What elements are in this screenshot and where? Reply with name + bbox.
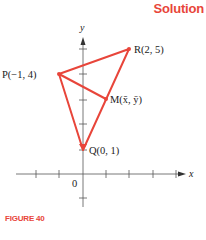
point-m-marker [104, 97, 108, 101]
point-p-marker [57, 72, 61, 76]
point-r-marker [127, 47, 131, 51]
point-m-label: M(x̄, ȳ) [110, 94, 143, 106]
point-q-label: Q(0, 1) [89, 145, 120, 157]
figure-caption: FIGURE 40 [5, 214, 45, 223]
y-axis-label: y [79, 22, 85, 33]
origin-label: 0 [72, 178, 77, 189]
coordinate-diagram: y x 0 P(−1, 4) R(2, 5) M(x̄, ȳ) Q(0, 1) [0, 0, 206, 240]
x-axis [16, 170, 186, 178]
point-r-label: R(2, 5) [134, 44, 164, 56]
x-axis-arrow-icon [178, 172, 186, 177]
x-axis-label: x [188, 168, 194, 179]
y-axis [79, 37, 87, 207]
point-p-label: P(−1, 4) [2, 69, 37, 81]
y-axis-arrow-icon [81, 37, 86, 45]
